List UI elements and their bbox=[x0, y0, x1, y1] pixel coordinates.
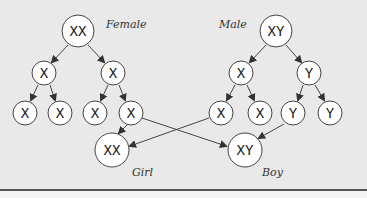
male-cell-3: Y bbox=[289, 105, 298, 121]
arrows bbox=[31, 45, 324, 146]
female-cell-3: X bbox=[91, 105, 100, 121]
inheritance-diagram: XX XY X X X Y X X X X X X Y Y XX XY Fema… bbox=[0, 0, 367, 198]
male-parent-chromosomes: XY bbox=[268, 23, 285, 39]
female-cell-4: X bbox=[127, 105, 136, 121]
boy-label: Boy bbox=[261, 166, 284, 179]
female-cell-2: X bbox=[56, 105, 65, 121]
female-gamete-1: X bbox=[40, 65, 49, 81]
male-cell-1: X bbox=[217, 105, 226, 121]
male-gamete-1: X bbox=[237, 65, 246, 81]
male-label: Male bbox=[218, 18, 247, 31]
female-label: Female bbox=[105, 18, 147, 31]
nodes bbox=[13, 15, 342, 167]
female-cell-1: X bbox=[21, 105, 30, 121]
female-gamete-2: X bbox=[109, 65, 118, 81]
male-cell-4: Y bbox=[326, 105, 335, 121]
male-gamete-2: Y bbox=[305, 65, 314, 81]
male-cell-2: X bbox=[256, 105, 265, 121]
girl-chromosomes: XX bbox=[104, 142, 121, 158]
girl-label: Girl bbox=[132, 166, 154, 179]
female-parent-chromosomes: XX bbox=[70, 23, 87, 39]
boy-chromosomes: XY bbox=[237, 142, 254, 158]
